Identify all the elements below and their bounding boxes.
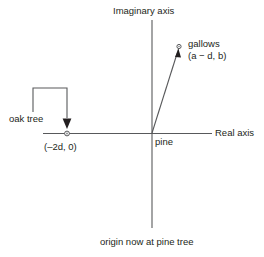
oak-tree-arrowhead (63, 119, 72, 130)
imaginary-axis-label: Imaginary axis (113, 5, 174, 16)
gallows-point-dot (178, 46, 180, 48)
gallows-arrowhead (175, 49, 181, 58)
oak-tree-coordinate-label: (–2d, 0) (44, 141, 77, 152)
oak-coord-rest: , 0) (63, 141, 77, 152)
gallows-coordinate-label: (a − d, b) (188, 50, 226, 61)
real-axis-label: Real axis (215, 127, 254, 138)
gallows-coord-close: ) (223, 50, 226, 61)
gallows-point-label: gallows (188, 38, 220, 49)
oak-tree-label: oak tree (9, 113, 43, 124)
complex-plane-diagram: Imaginary axis Real axis pine gallows (a… (0, 0, 264, 257)
pine-point-label: pine (155, 136, 173, 147)
gallows-coord-minus: − (196, 50, 207, 61)
oak-tree-point-dot (66, 133, 68, 135)
figure-caption: origin now at pine tree (100, 236, 193, 247)
pine-to-gallows-segment (152, 49, 179, 133)
